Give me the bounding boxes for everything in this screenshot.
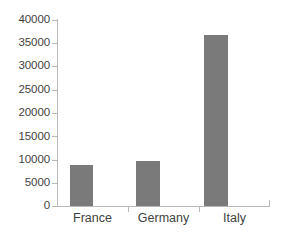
y-axis-tick-label: 40000: [19, 14, 50, 26]
y-axis-tick-label: 0: [44, 200, 50, 212]
y-axis-tick-label: 35000: [19, 37, 50, 49]
y-axis-line: [57, 19, 58, 207]
x-axis-category-label-france: France: [57, 211, 128, 225]
bar-chart: 40000 35000 30000 25000 20000 15000 1000…: [0, 0, 283, 236]
y-axis-tick-label: 20000: [19, 107, 50, 119]
x-axis-category-label-italy: Italy: [199, 211, 270, 225]
bar-france[interactable]: [70, 165, 93, 206]
x-axis-start-tick: [57, 200, 58, 207]
y-axis-tick-label: 15000: [19, 131, 50, 143]
bar-germany[interactable]: [136, 161, 160, 206]
x-axis-end-tick: [269, 200, 270, 207]
bar-italy[interactable]: [204, 35, 228, 206]
y-axis-tick-label: 5000: [25, 177, 50, 189]
x-axis-line: [57, 206, 270, 207]
y-axis-tick-label: 30000: [19, 60, 50, 72]
x-axis-category-label-germany: Germany: [128, 211, 199, 225]
y-axis-tick-label: 25000: [19, 84, 50, 96]
y-axis-tick-label: 10000: [19, 154, 50, 166]
